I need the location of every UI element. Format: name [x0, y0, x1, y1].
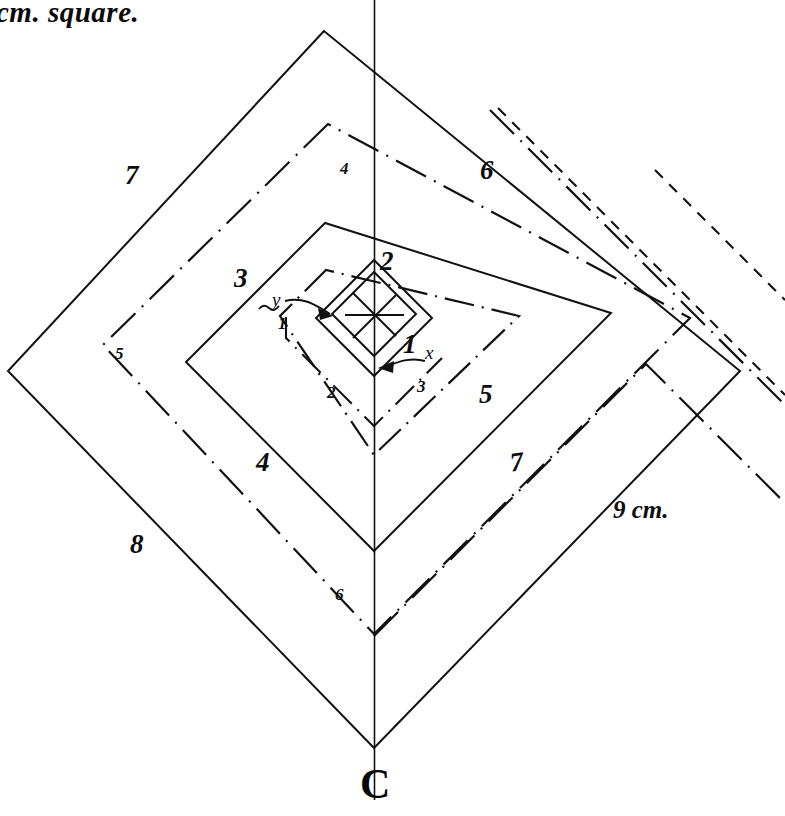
label-x: x — [425, 343, 433, 362]
center-mark-c: C — [360, 760, 390, 808]
label-4-top: 4 — [340, 160, 349, 177]
ring-7-dashdot — [103, 124, 690, 634]
label-1-left: 1 — [278, 315, 287, 332]
diamond-spiral-drawing — [0, 0, 785, 816]
label-5-left: 5 — [115, 345, 124, 362]
label-2-bottom: 2 — [327, 384, 336, 401]
label-9cm: 9 cm. — [613, 497, 669, 522]
ring-dashed-outer — [498, 108, 785, 395]
ring-4-dashdot — [286, 317, 442, 426]
label-8-left: 8 — [130, 531, 144, 558]
label-5-right: 5 — [479, 381, 493, 408]
label-7-left: 7 — [125, 162, 139, 189]
label-6-top: 6 — [480, 157, 494, 184]
figure-canvas: cm. square. 7 4 6 3 2 5 1 y 1 x 2 3 5 4 … — [0, 0, 785, 816]
label-7-right: 7 — [508, 448, 525, 477]
label-6-bottom: 6 — [335, 586, 344, 603]
ring-9-dashdot — [490, 110, 785, 405]
label-3-center: 3 — [417, 378, 426, 395]
ring-9-dashdot-lower — [374, 364, 785, 636]
page-heading: cm. square. — [0, 0, 139, 29]
ring-dashed-outer-lower — [655, 170, 785, 300]
label-1-right: 1 — [403, 331, 417, 358]
label-4-bottom: 4 — [256, 449, 270, 476]
label-3-left: 3 — [234, 265, 248, 292]
label-2-top: 2 — [380, 248, 394, 275]
label-y: y — [272, 290, 280, 309]
